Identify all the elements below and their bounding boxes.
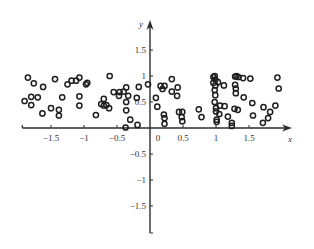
data-point: [77, 75, 82, 80]
data-point: [128, 117, 133, 122]
data-point: [260, 120, 265, 125]
data-point: [52, 77, 57, 82]
data-point: [266, 116, 271, 121]
data-point: [241, 95, 246, 100]
data-point: [196, 107, 201, 112]
data-point: [40, 111, 45, 116]
data-point: [29, 103, 34, 108]
data-point: [273, 103, 278, 108]
data-point: [56, 107, 61, 112]
data-point: [276, 86, 281, 91]
data-point: [275, 75, 280, 80]
axes: −1.5−1−0.50.511.5 −1.5−1−0.50.511.5 x y …: [22, 19, 292, 233]
y-tick-label: 1: [142, 71, 147, 81]
data-point: [153, 95, 158, 100]
scatter-chart: −1.5−1−0.50.511.5 −1.5−1−0.50.511.5 x y …: [0, 0, 314, 249]
data-point: [175, 93, 180, 98]
data-point: [175, 85, 180, 90]
data-point: [136, 84, 141, 89]
y-tick-label: −1: [136, 175, 146, 185]
x-tick-label: −1.5: [43, 133, 60, 143]
data-point: [235, 107, 240, 112]
y-axis-label: y: [138, 19, 143, 29]
x-tick-label: 1.5: [243, 133, 255, 143]
data-point: [124, 99, 129, 104]
data-point: [77, 103, 82, 108]
data-point: [248, 76, 253, 81]
data-point: [221, 83, 226, 88]
data-point: [162, 121, 167, 126]
data-point: [212, 99, 217, 104]
data-point: [199, 115, 204, 120]
x-tick-label: −1: [79, 133, 89, 143]
data-point: [60, 95, 65, 100]
data-point: [169, 89, 174, 94]
data-point: [124, 108, 129, 113]
data-point: [135, 122, 140, 127]
origin-tick-label: 0: [156, 133, 161, 143]
y-tick-label: 0.5: [135, 97, 147, 107]
data-point: [48, 106, 53, 111]
data-point: [56, 113, 61, 118]
data-point: [22, 98, 27, 103]
data-point: [93, 112, 98, 117]
data-point: [126, 93, 131, 98]
data-point: [225, 114, 230, 119]
x-tick-label: 0.5: [177, 133, 189, 143]
x-tick-label: 1: [214, 133, 219, 143]
x-tick-label: −0.5: [109, 133, 126, 143]
data-point: [29, 94, 34, 99]
data-point: [250, 113, 255, 118]
data-point: [155, 104, 160, 109]
data-point: [124, 85, 129, 90]
data-point: [77, 94, 82, 99]
data-point: [101, 96, 106, 101]
data-point: [41, 84, 46, 89]
data-point: [25, 75, 30, 80]
y-tick-label: −0.5: [130, 149, 147, 159]
x-axis-label: x: [287, 134, 292, 144]
data-point: [268, 109, 273, 114]
data-point: [107, 73, 112, 78]
data-point: [250, 100, 255, 105]
data-point: [111, 90, 116, 95]
data-point: [213, 93, 218, 98]
data-point: [31, 81, 36, 86]
data-point: [169, 77, 174, 82]
data-point: [35, 95, 40, 100]
y-tick-label: −1.5: [130, 201, 147, 211]
y-tick-label: 1.5: [135, 45, 147, 55]
data-point: [261, 105, 266, 110]
